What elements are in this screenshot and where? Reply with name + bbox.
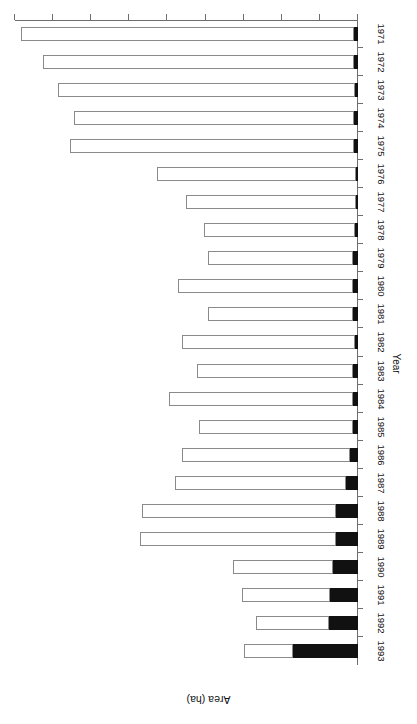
bar-segment-outer [140, 532, 336, 546]
bar-row [15, 644, 358, 658]
category-label: 1974 [376, 108, 386, 129]
category-label: 1987 [376, 472, 386, 493]
category-tick [358, 412, 363, 413]
bar-segment-outer [197, 364, 353, 378]
category-tick [358, 327, 363, 328]
bar-segment-inner [336, 532, 358, 546]
bar-segment-outer [208, 307, 354, 321]
category-tick [358, 159, 363, 160]
value-tick [243, 14, 244, 20]
bar-row [15, 616, 358, 630]
category-label: 1971 [376, 23, 386, 44]
category-label: 1976 [376, 164, 386, 185]
value-tick [281, 14, 282, 20]
category-label: 1972 [376, 52, 386, 73]
category-tick [358, 47, 363, 48]
category-tick [358, 356, 363, 357]
bar-segment-outer [70, 139, 354, 153]
bar-segment-inner [293, 644, 358, 658]
category-label: 1988 [376, 500, 386, 521]
bar-row [15, 223, 358, 237]
bar-segment-inner [353, 364, 358, 378]
bar-row [15, 55, 358, 69]
bar-row [15, 83, 358, 97]
bar-segment-inner [353, 279, 358, 293]
bar-segment-outer [204, 223, 355, 237]
bar-row [15, 476, 358, 490]
bar-segment-inner [346, 476, 358, 490]
bar-segment-outer [233, 560, 333, 574]
chart-figure: 05 00010 00015 00020 00025 00030 00035 0… [0, 0, 417, 724]
category-tick [358, 103, 363, 104]
bar-segment-outer [169, 392, 353, 406]
bar-segment-inner [353, 392, 358, 406]
bar-segment-inner [355, 223, 358, 237]
category-tick [358, 440, 363, 441]
bar-segment-outer [58, 83, 355, 97]
bar-segment-outer [199, 420, 353, 434]
category-label: 1993 [376, 640, 386, 661]
bar-row [15, 307, 358, 321]
category-label: 1975 [376, 136, 386, 157]
bar-row [15, 392, 358, 406]
value-tick [357, 14, 358, 20]
bar-segment-outer [178, 279, 354, 293]
category-label: 1983 [376, 360, 386, 381]
bar-segment-inner [336, 504, 358, 518]
bar-segment-inner [355, 336, 358, 350]
bar-row [15, 504, 358, 518]
bar-segment-outer [43, 55, 354, 69]
value-tick [205, 14, 206, 20]
bar-segment-outer [21, 27, 354, 41]
bar-row [15, 420, 358, 434]
bar-segment-outer [182, 336, 355, 350]
value-axis-title: Area (ha) [0, 694, 417, 706]
bar-segment-inner [354, 55, 358, 69]
bar-segment-inner [353, 307, 358, 321]
bar-row [15, 560, 358, 574]
category-label: 1982 [376, 332, 386, 353]
bar-segment-inner [354, 27, 358, 41]
bar-row [15, 195, 358, 209]
category-tick [358, 243, 363, 244]
category-tick [358, 636, 363, 637]
bar-segment-outer [208, 251, 354, 265]
category-tick [358, 271, 363, 272]
bar-segment-outer [186, 195, 356, 209]
bar-segment-inner [350, 448, 358, 462]
category-tick [358, 187, 363, 188]
category-tick [358, 75, 363, 76]
category-label: 1984 [376, 388, 386, 409]
category-label: 1978 [376, 220, 386, 241]
bar-row [15, 139, 358, 153]
bar-segment-inner [333, 560, 358, 574]
bar-row [15, 251, 358, 265]
bar-segment-outer [256, 616, 329, 630]
bar-row [15, 27, 358, 41]
category-tick [358, 608, 363, 609]
category-tick [358, 552, 363, 553]
bar-segment-inner [354, 139, 358, 153]
bar-row [15, 279, 358, 293]
bar-row [15, 364, 358, 378]
bar-row [15, 167, 358, 181]
bar-segment-inner [353, 251, 358, 265]
bar-segment-inner [353, 420, 358, 434]
category-tick [358, 580, 363, 581]
category-label: 1989 [376, 528, 386, 549]
bar-row [15, 588, 358, 602]
category-label: 1979 [376, 248, 386, 269]
bar-segment-inner [356, 167, 358, 181]
value-tick [128, 14, 129, 20]
category-tick [358, 299, 363, 300]
category-label: 1981 [376, 304, 386, 325]
value-tick [166, 14, 167, 20]
bar-segment-inner [356, 195, 358, 209]
bar-segment-inner [330, 588, 358, 602]
category-label: 1992 [376, 612, 386, 633]
bar-row [15, 111, 358, 125]
bar-segment-outer [157, 167, 356, 181]
category-tick [358, 524, 363, 525]
category-tick [358, 215, 363, 216]
category-tick [358, 496, 363, 497]
